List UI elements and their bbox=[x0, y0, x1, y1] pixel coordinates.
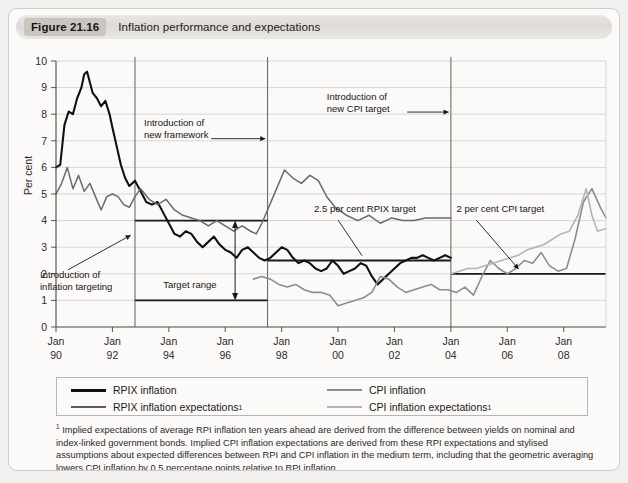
legend-item-cpi-expectations: CPI inflation expectations1 bbox=[327, 401, 491, 413]
legend-footnote-mark-rpix: 1 bbox=[239, 404, 243, 411]
x-tick-label-year: 90 bbox=[50, 349, 62, 361]
y-axis-label: Per cent bbox=[22, 156, 34, 195]
x-tick-label-month: Jan bbox=[555, 335, 572, 347]
y-tick-label: 6 bbox=[41, 161, 47, 173]
legend-item-rpix-inflation: RPIX inflation bbox=[71, 384, 177, 396]
x-tick-label-year: 92 bbox=[107, 349, 119, 361]
legend-label-cpi-expectations: CPI inflation expectations bbox=[369, 401, 487, 413]
y-tick-label: 4 bbox=[41, 214, 47, 226]
annotation-rpix-target-label: 2.5 per cent RPIX target bbox=[314, 203, 416, 256]
legend-item-cpi-inflation: CPI inflation bbox=[327, 384, 426, 396]
figure-card: Figure 21.16 Inflation performance and e… bbox=[8, 8, 620, 471]
annotation-introduction-of-new-cpi-target: Introduction ofnew CPI target bbox=[327, 91, 449, 115]
legend-swatch-rpix-inflation bbox=[71, 389, 106, 392]
y-tick-label: 3 bbox=[41, 241, 47, 253]
footnote-text: Implied expectations of average RPI infl… bbox=[56, 425, 593, 471]
legend-swatch-cpi-inflation bbox=[327, 389, 362, 391]
x-tick-label-month: Jan bbox=[217, 335, 234, 347]
annotation-introduction-of-inflation-targeting: Introduction ofinflation targeting bbox=[40, 235, 131, 292]
x-tick-label-month: Jan bbox=[330, 335, 347, 347]
x-tick-label-year: 08 bbox=[558, 349, 570, 361]
x-tick-label-year: 06 bbox=[501, 349, 513, 361]
figure-footnote: 1 Implied expectations of average RPI in… bbox=[56, 421, 596, 471]
annotation-line1: 2 per cent CPI target bbox=[457, 203, 545, 214]
annotation-introduction-of-new-framework: Introduction ofnew framework bbox=[144, 117, 265, 141]
annotation-line1: Introduction of bbox=[327, 91, 388, 102]
y-tick-label: 0 bbox=[41, 321, 47, 333]
figure-number: Figure 21.16 bbox=[24, 18, 106, 36]
chart-legend: RPIX inflation RPIX inflation expectatio… bbox=[56, 377, 588, 416]
inflation-line-chart: 012345678910 Jan90Jan92Jan94Jan96Jan98Ja… bbox=[16, 45, 612, 370]
x-tick-label-year: 00 bbox=[332, 349, 344, 361]
annotation-line2: new framework bbox=[144, 129, 209, 140]
legend-label-cpi-inflation: CPI inflation bbox=[369, 384, 426, 396]
x-tick-label-year: 98 bbox=[276, 349, 288, 361]
legend-swatch-rpix-expectations bbox=[71, 406, 106, 408]
series-line-rpix-inflation-expectations bbox=[56, 167, 451, 234]
x-tick-label-month: Jan bbox=[104, 335, 121, 347]
annotation-line1: 2.5 per cent RPIX target bbox=[314, 203, 416, 214]
x-tick-label-year: 02 bbox=[389, 349, 401, 361]
y-tick-label: 10 bbox=[35, 55, 47, 67]
annotation-line2: new CPI target bbox=[327, 103, 390, 114]
x-tick-label-year: 96 bbox=[219, 349, 231, 361]
chart-plot-area: Per cent 012345678910 Jan90Jan92Jan94Jan… bbox=[16, 45, 612, 370]
x-tick-label-month: Jan bbox=[499, 335, 516, 347]
x-tick-label-year: 04 bbox=[445, 349, 457, 361]
legend-item-rpix-expectations: RPIX inflation expectations1 bbox=[71, 401, 242, 413]
x-axis-ticks: Jan90Jan92Jan94Jan96Jan98Jan00Jan02Jan04… bbox=[48, 327, 573, 361]
series-line-rpix-inflation bbox=[56, 72, 451, 285]
annotation-line1: Introduction of bbox=[40, 269, 101, 280]
x-tick-label-month: Jan bbox=[442, 335, 459, 347]
legend-swatch-cpi-expectations bbox=[327, 406, 362, 408]
x-tick-label-year: 94 bbox=[163, 349, 175, 361]
y-tick-label: 9 bbox=[41, 81, 47, 93]
legend-footnote-mark-cpi: 1 bbox=[487, 404, 491, 411]
legend-label-rpix-expectations: RPIX inflation expectations bbox=[113, 401, 239, 413]
annotation-line1: Target range bbox=[163, 279, 216, 290]
x-tick-label-month: Jan bbox=[386, 335, 403, 347]
y-tick-label: 1 bbox=[41, 294, 47, 306]
y-tick-label: 8 bbox=[41, 108, 47, 120]
figure-header: Figure 21.16 Inflation performance and e… bbox=[16, 15, 612, 39]
x-tick-label-month: Jan bbox=[48, 335, 65, 347]
legend-label-rpix-inflation: RPIX inflation bbox=[113, 384, 177, 396]
y-tick-label: 7 bbox=[41, 135, 47, 147]
figure-title: Inflation performance and expectations bbox=[118, 21, 320, 33]
footnote-marker: 1 bbox=[56, 423, 60, 430]
annotation-cpi-target-label: 2 per cent CPI target bbox=[457, 203, 545, 269]
annotation-line1: Introduction of bbox=[144, 117, 205, 128]
y-tick-label: 5 bbox=[41, 188, 47, 200]
x-tick-label-month: Jan bbox=[273, 335, 290, 347]
annotation-line2: inflation targeting bbox=[40, 281, 112, 292]
x-tick-label-month: Jan bbox=[160, 335, 177, 347]
